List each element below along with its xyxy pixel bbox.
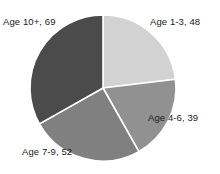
slice-label-age-4-6: Age 4-6, 39 <box>148 112 198 123</box>
slice-label-age-1-3: Age 1-3, 48 <box>150 16 200 27</box>
slice-label-age-7-9: Age 7-9, 52 <box>22 146 72 157</box>
pie-chart: Age 10+, 69 Age 1-3, 48 Age 4-6, 39 Age … <box>0 0 220 174</box>
slice-label-age-10-plus: Age 10+, 69 <box>3 16 56 27</box>
